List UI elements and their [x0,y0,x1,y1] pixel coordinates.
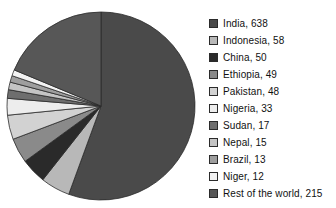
legend-item-label: Nepal, 15 [223,137,267,148]
legend-item[interactable]: India, 638 [209,15,336,32]
legend-item-label: China, 50 [223,52,267,63]
legend-swatch-icon [209,104,218,113]
legend-swatch-icon [209,36,218,45]
legend-item-label: Rest of the world, 215 [223,188,322,199]
legend-item[interactable]: Nepal, 15 [209,134,336,151]
legend-swatch-icon [209,172,218,181]
legend-swatch-icon [209,87,218,96]
legend-item[interactable]: China, 50 [209,49,336,66]
legend-item-label: Ethiopia, 49 [223,69,277,80]
legend-swatch-icon [209,19,218,28]
pie-chart-area [0,0,202,208]
legend-item[interactable]: Indonesia, 58 [209,32,336,49]
legend-swatch-icon [209,121,218,130]
legend-swatch-icon [209,138,218,147]
legend-item[interactable]: Pakistan, 48 [209,83,336,100]
legend-item[interactable]: Brazil, 13 [209,151,336,168]
legend-item[interactable]: Ethiopia, 49 [209,66,336,83]
legend-item-label: Pakistan, 48 [223,86,279,97]
legend-item[interactable]: Niger, 12 [209,168,336,185]
legend-swatch-icon [209,70,218,79]
legend-item-label: Indonesia, 58 [223,35,284,46]
legend-item-label: Sudan, 17 [223,120,270,131]
pie-slice-group [7,12,195,200]
legend-item-label: India, 638 [223,18,268,29]
legend-item-label: Niger, 12 [223,171,264,182]
pie-chart-figure: India, 638Indonesia, 58China, 50Ethiopia… [0,0,336,208]
legend-swatch-icon [209,189,218,198]
legend-swatch-icon [209,155,218,164]
legend-item-label: Brazil, 13 [223,154,266,165]
legend-item[interactable]: Sudan, 17 [209,117,336,134]
legend-item[interactable]: Nigeria, 33 [209,100,336,117]
legend-item[interactable]: Rest of the world, 215 [209,185,336,202]
legend-item-label: Nigeria, 33 [223,103,272,114]
pie-chart-svg [0,0,202,208]
legend-swatch-icon [209,53,218,62]
chart-legend: India, 638Indonesia, 58China, 50Ethiopia… [209,15,336,202]
